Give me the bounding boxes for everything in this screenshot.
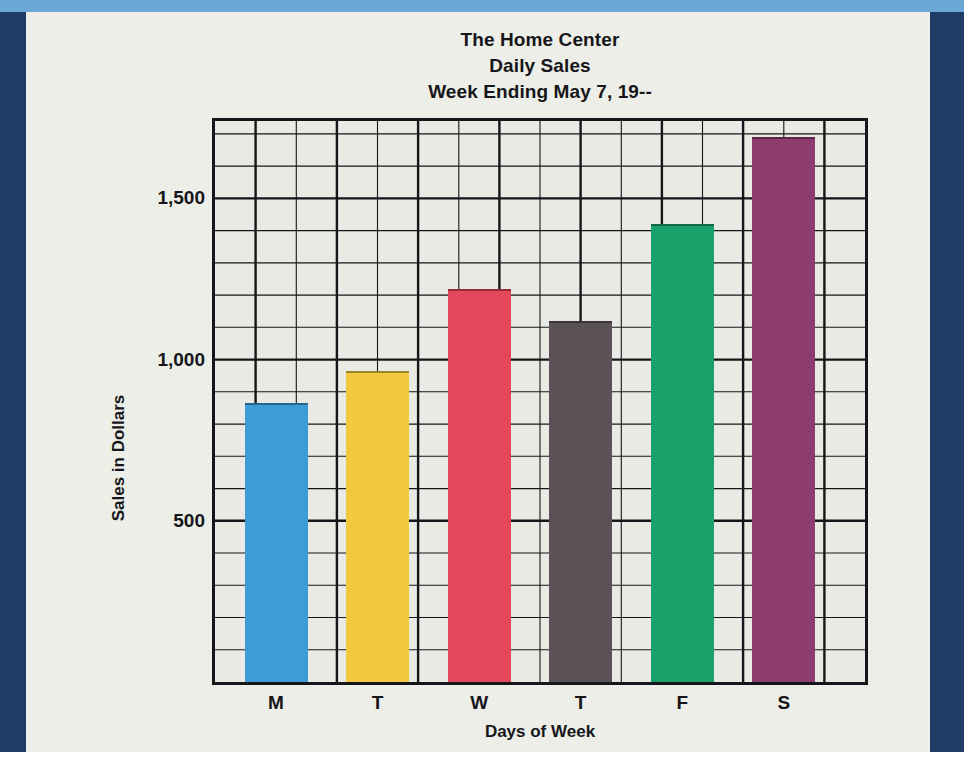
x-axis-title: Days of Week — [212, 722, 868, 742]
y-tick-1500: 1,500 — [115, 188, 205, 208]
bars-layer — [215, 121, 865, 682]
chart-title-line-1: The Home Center — [210, 27, 870, 53]
x-tick-monday: M — [246, 692, 306, 714]
top-blue-band — [0, 0, 964, 12]
bar-tuesday — [346, 371, 409, 682]
chart-title-line-3: Week Ending May 7, 19-- — [210, 79, 870, 105]
bar-monday — [245, 403, 308, 682]
x-tick-saturday: S — [754, 692, 814, 714]
bottom-white-band — [0, 752, 964, 758]
chart-title-line-2: Daily Sales — [210, 53, 870, 79]
x-axis-ticks: MTWTFS — [212, 692, 868, 718]
x-tick-friday: F — [652, 692, 712, 714]
chart-title-block: The Home Center Daily Sales Week Ending … — [210, 27, 870, 105]
bar-friday — [651, 224, 714, 682]
x-tick-wednesday: W — [449, 692, 509, 714]
bar-wednesday — [448, 289, 511, 682]
figure-page: The Home Center Daily Sales Week Ending … — [0, 0, 964, 758]
left-navy-band — [0, 12, 26, 752]
bar-saturday — [752, 137, 815, 682]
plot-area — [212, 118, 868, 685]
y-axis-title-wrap: Sales in Dollars — [62, 118, 122, 685]
right-navy-band — [930, 12, 964, 752]
y-axis-title: Sales in Dollars — [109, 343, 129, 573]
x-tick-thursday: T — [551, 692, 611, 714]
bar-thursday — [549, 321, 612, 682]
x-tick-tuesday: T — [348, 692, 408, 714]
